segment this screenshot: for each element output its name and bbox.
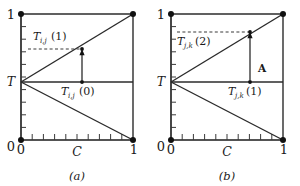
data-point-upper-a bbox=[80, 47, 84, 51]
annotation-upper-sub-b: j,k bbox=[182, 41, 193, 50]
plot-panel-a: 1 T 0 0 1 C T i,j (1) T i,j (0) (a) bbox=[0, 0, 150, 186]
region-label-a-b: A bbox=[257, 62, 267, 74]
data-point-lower-b bbox=[248, 80, 252, 84]
upper-diagonal-a bbox=[21, 14, 133, 82]
corner-marker-top-left-a bbox=[18, 11, 24, 17]
corner-marker-top-right-b bbox=[280, 11, 286, 17]
annotation-lower-a: T i,j (0) bbox=[61, 85, 95, 100]
annotation-lower-sub-b: j,k bbox=[233, 91, 244, 100]
figure-container: 1 T 0 0 1 C T i,j (1) T i,j (0) (a) bbox=[0, 0, 300, 186]
y-tick-label-top-a: 1 bbox=[7, 7, 15, 22]
annotation-upper-a: T i,j (1) bbox=[33, 30, 67, 45]
lower-diagonal-a bbox=[21, 82, 133, 140]
annotation-upper-arg-a: (1) bbox=[51, 30, 67, 43]
annotation-upper-arg-b: (2) bbox=[195, 35, 211, 48]
annotation-upper-b: T j,k (2) bbox=[177, 35, 211, 50]
y-tick-label-mid-b: T bbox=[157, 74, 167, 89]
x-axis-title-b: C bbox=[222, 144, 232, 159]
corner-marker-top-left-b bbox=[168, 11, 174, 17]
x-axis-ticks-a bbox=[32, 134, 122, 140]
annotation-lower-arg-a: (0) bbox=[79, 85, 95, 98]
y-tick-label-bottom-b: 0 bbox=[157, 139, 165, 154]
lower-diagonal-b bbox=[171, 82, 283, 140]
y-tick-label-top-b: 1 bbox=[157, 7, 165, 22]
y-tick-label-mid-a: T bbox=[7, 74, 17, 89]
data-point-lower-a bbox=[80, 80, 84, 84]
x-axis-ticks-b bbox=[182, 134, 272, 140]
plot-panel-b: 1 T 0 0 1 C T j,k (2) T j,k (1) A (b) bbox=[150, 0, 300, 186]
x-axis-title-a: C bbox=[72, 144, 82, 159]
annotation-lower-arg-b: (1) bbox=[246, 85, 262, 98]
x-tick-label-right-a: 1 bbox=[130, 142, 138, 157]
panel-caption-a: (a) bbox=[69, 169, 85, 183]
corner-marker-top-right-a bbox=[130, 11, 136, 17]
x-tick-label-left-a: 0 bbox=[17, 142, 25, 157]
data-point-upper-b bbox=[248, 30, 252, 34]
annotation-lower-sub-a: i,j bbox=[68, 91, 76, 100]
panel-caption-b: (b) bbox=[219, 169, 235, 183]
x-tick-label-right-b: 1 bbox=[280, 142, 288, 157]
annotation-lower-b: T j,k (1) bbox=[228, 85, 262, 100]
x-tick-label-left-b: 0 bbox=[167, 142, 175, 157]
y-tick-label-bottom-a: 0 bbox=[7, 139, 15, 154]
annotation-upper-sub-a: i,j bbox=[40, 36, 48, 45]
